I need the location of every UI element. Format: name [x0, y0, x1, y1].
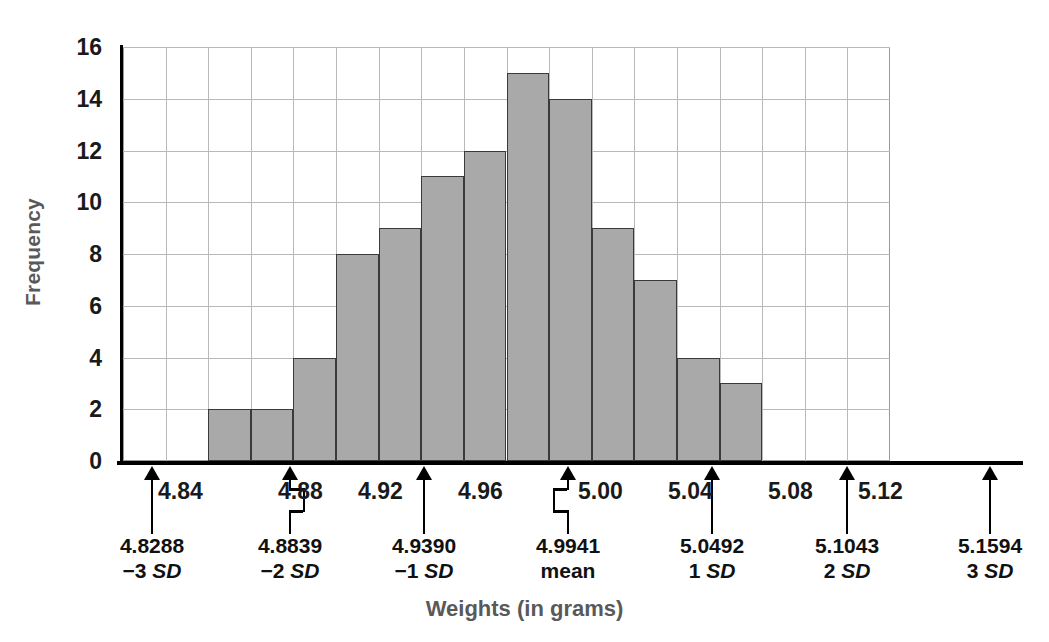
- histogram-bar: [293, 358, 336, 462]
- y-tick-label-12: 12: [62, 137, 102, 164]
- sd-annotation-value: 4.9390: [392, 534, 456, 559]
- y-tick-label-2: 2: [62, 396, 102, 423]
- sd-arrow-shaft: [989, 478, 992, 534]
- x-axis-line: [117, 461, 1023, 465]
- sd-annotation-value: 4.8839: [258, 534, 322, 559]
- histogram-bar: [507, 73, 550, 461]
- y-tick-label-0: 0: [62, 448, 102, 475]
- sd-annotation: 4.8839−2 SD: [258, 534, 322, 584]
- sd-annotation-label: mean: [536, 559, 600, 584]
- sd-arrow-jog: [553, 510, 567, 513]
- gridline-vertical-15: [762, 47, 763, 461]
- y-tick-label-14: 14: [62, 85, 102, 112]
- y-axis-line: [120, 45, 123, 463]
- gridline-vertical-3: [251, 47, 252, 461]
- histogram-bar: [720, 383, 763, 461]
- sd-annotation-value: 5.1594: [958, 534, 1022, 559]
- sd-annotation: 5.15943 SD: [958, 534, 1022, 584]
- gridline-vertical-2: [208, 47, 209, 461]
- sd-annotation-label: 1 SD: [680, 559, 744, 584]
- sd-arrow-shaft: [846, 478, 849, 534]
- x-axis-title: Weights (in grams): [0, 596, 1049, 622]
- sd-arrow-shaft: [567, 478, 570, 490]
- sd-annotation-value: 4.8288: [120, 534, 184, 559]
- sd-annotation: 4.9390−1 SD: [392, 534, 456, 584]
- x-tick-label: 4.96: [458, 478, 503, 505]
- gridline-vertical-17: [847, 47, 848, 461]
- x-tick-label: 5.08: [768, 478, 813, 505]
- sd-arrow-shaft: [553, 488, 556, 512]
- y-tick-label-8: 8: [62, 241, 102, 268]
- gridline-vertical-1: [166, 47, 167, 461]
- histogram-figure: Frequency 16 14 12 10 8 6 4 2 0 4.844.88…: [0, 0, 1049, 642]
- histogram-bar: [634, 280, 677, 461]
- y-tick-label-6: 6: [62, 292, 102, 319]
- histogram-bar: [592, 228, 635, 461]
- x-tick-label: 4.88: [278, 478, 323, 505]
- histogram-bar: [464, 151, 507, 462]
- y-tick-label-4: 4: [62, 344, 102, 371]
- sd-annotation: 5.10432 SD: [815, 534, 879, 584]
- sd-annotation: 4.9941mean: [536, 534, 600, 584]
- histogram-bar: [549, 99, 592, 461]
- x-tick-label: 5.12: [858, 478, 903, 505]
- x-tick-label: 4.84: [158, 478, 203, 505]
- histogram-bar: [336, 254, 379, 461]
- gridline-vertical-16: [805, 47, 806, 461]
- plot-area: [123, 47, 890, 461]
- sd-annotation-label: 2 SD: [815, 559, 879, 584]
- sd-annotation-label: 3 SD: [958, 559, 1022, 584]
- y-axis-title: Frequency: [21, 167, 45, 337]
- y-tick-label-10: 10: [62, 189, 102, 216]
- sd-arrow-shaft: [567, 510, 570, 534]
- histogram-bar: [421, 176, 464, 461]
- sd-annotation-label: −3 SD: [120, 559, 184, 584]
- sd-arrow-shaft: [151, 478, 154, 534]
- sd-annotation-value: 4.9941: [536, 534, 600, 559]
- x-tick-label: 4.92: [358, 478, 403, 505]
- x-tick-label: 5.04: [668, 478, 713, 505]
- x-tick-label: 5.00: [578, 478, 623, 505]
- sd-annotation-value: 5.1043: [815, 534, 879, 559]
- sd-annotation-label: −2 SD: [258, 559, 322, 584]
- sd-annotation-value: 5.0492: [680, 534, 744, 559]
- histogram-bar: [251, 409, 294, 461]
- histogram-bar: [379, 228, 422, 461]
- sd-annotation: 5.04921 SD: [680, 534, 744, 584]
- sd-annotation: 4.8288−3 SD: [120, 534, 184, 584]
- sd-annotation-label: −1 SD: [392, 559, 456, 584]
- sd-arrow-shaft: [289, 510, 292, 534]
- sd-arrow-shaft: [423, 478, 426, 534]
- histogram-bar: [677, 358, 720, 462]
- y-tick-label-16: 16: [62, 34, 102, 61]
- histogram-bar: [208, 409, 251, 461]
